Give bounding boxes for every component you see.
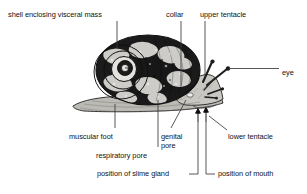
position-arrows bbox=[196, 108, 209, 123]
label-position-of-slime-gland: position of slime gland bbox=[97, 170, 169, 179]
label-lower-tentacle: lower tentacle bbox=[228, 133, 273, 142]
snail-shell bbox=[94, 35, 200, 105]
label-upper-tentacle: upper tentacle bbox=[200, 11, 246, 20]
label-eye: eye bbox=[282, 69, 294, 78]
label-genital-pore: genital pore bbox=[161, 133, 191, 150]
arrow-slime-gland bbox=[196, 109, 201, 123]
genital-pore-mark bbox=[187, 93, 193, 97]
leader-position-of-mouth bbox=[206, 122, 215, 174]
arrow-mouth bbox=[204, 108, 209, 123]
label-position-of-mouth: position of mouth bbox=[218, 170, 273, 179]
label-muscular-foot: muscular foot bbox=[69, 133, 113, 142]
label-collar: collar bbox=[166, 11, 183, 20]
label-shell-enclosing-visceral-mass: shell enclosing visceral mass bbox=[8, 11, 102, 20]
leader-lower-tentacle bbox=[209, 116, 227, 130]
snail-illustration bbox=[0, 0, 307, 194]
label-respiratory-pore: respiratory pore bbox=[96, 152, 147, 161]
snail-anatomy-diagram: shell enclosing visceral mass collar upp… bbox=[0, 0, 307, 194]
